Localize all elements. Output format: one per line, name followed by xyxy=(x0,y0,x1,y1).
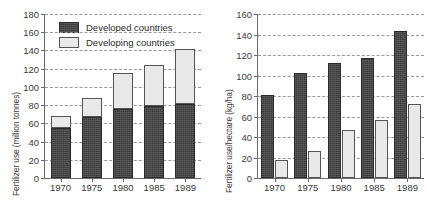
bar-stacked xyxy=(51,116,71,178)
y-axis-tick-label: 140 xyxy=(23,45,39,56)
bar-developed xyxy=(294,73,307,178)
legend-swatch-developing xyxy=(59,37,79,48)
bar-segment-developing xyxy=(175,49,195,105)
bar-developing xyxy=(408,104,421,178)
y-axis-tick xyxy=(254,35,258,36)
y-axis-tick xyxy=(254,76,258,77)
bar-segment-developed xyxy=(144,106,164,178)
gridline xyxy=(45,14,201,15)
y-axis-tick xyxy=(41,69,45,70)
y-axis-tick-label: 60 xyxy=(241,111,252,122)
bar-developed xyxy=(394,31,407,178)
y-axis-tick-label: 20 xyxy=(241,152,252,163)
bar-stacked xyxy=(175,49,195,178)
bar-stacked xyxy=(113,73,133,178)
x-axis-tick-label: 1975 xyxy=(297,182,318,193)
bar-segment-developed xyxy=(113,109,133,178)
y-axis-tick xyxy=(41,123,45,124)
x-axis-tick-label: 1989 xyxy=(397,182,418,193)
gridline xyxy=(258,14,424,15)
chart-panel-right: Fertilizer use/hectare (kg/ha) 020406080… xyxy=(213,0,427,212)
y-axis-tick-label: 40 xyxy=(28,136,39,147)
bar-segment-developed xyxy=(82,117,102,178)
y-axis-tick xyxy=(41,14,45,15)
chart-legend: Developed countries Developing countries xyxy=(59,20,175,50)
bar-stacked xyxy=(144,65,164,178)
bar-stacked xyxy=(82,98,102,178)
y-axis-tick xyxy=(41,50,45,51)
fertilizer-use-figure: Fertilizer use (million tonnes) Develope… xyxy=(0,0,427,212)
bar-developed xyxy=(261,95,274,178)
bar-developed xyxy=(328,63,341,178)
bar-developing xyxy=(308,151,321,178)
x-axis-tick-label: 1985 xyxy=(144,182,165,193)
chart-panel-left: Fertilizer use (million tonnes) Develope… xyxy=(0,0,213,212)
y-axis-tick xyxy=(41,105,45,106)
y-axis-tick-label: 80 xyxy=(28,100,39,111)
y-axis-tick xyxy=(254,55,258,56)
bar-segment-developing xyxy=(82,98,102,117)
y-axis-tick-label: 160 xyxy=(236,9,252,20)
y-axis-tick-label: 40 xyxy=(241,132,252,143)
bar-segment-developing xyxy=(144,65,164,106)
x-axis-tick-label: 1975 xyxy=(81,182,102,193)
bar-segment-developing xyxy=(113,73,133,109)
y-axis-tick-label: 100 xyxy=(23,81,39,92)
bar-segment-developing xyxy=(51,116,71,128)
y-axis-tick-label: 80 xyxy=(241,91,252,102)
y-axis-tick-label: 160 xyxy=(23,27,39,38)
bar-segment-developed xyxy=(175,104,195,178)
y-axis-tick-label: 140 xyxy=(236,29,252,40)
bar-segment-developed xyxy=(51,128,71,178)
x-axis-tick-label: 1970 xyxy=(264,182,285,193)
y-axis-tick xyxy=(41,160,45,161)
bar-developing xyxy=(375,120,388,178)
y-axis-tick xyxy=(254,96,258,97)
x-axis-tick-label: 1980 xyxy=(112,182,133,193)
bar-developing xyxy=(342,130,355,178)
y-axis-tick-label: 0 xyxy=(34,173,39,184)
bar-developing xyxy=(275,160,288,178)
x-axis-tick-label: 1970 xyxy=(50,182,71,193)
bar-developed xyxy=(361,58,374,178)
legend-label-developing: Developing countries xyxy=(86,37,175,48)
y-axis-tick-label: 20 xyxy=(28,154,39,165)
legend-item-developing: Developing countries xyxy=(59,35,175,50)
y-axis-tick xyxy=(41,142,45,143)
plot-area-right: 0204060801001201401601970197519801985198… xyxy=(257,14,424,179)
y-axis-tick-label: 120 xyxy=(23,63,39,74)
y-axis-tick xyxy=(254,117,258,118)
y-axis-tick xyxy=(41,178,45,179)
x-axis-tick-label: 1985 xyxy=(364,182,385,193)
y-axis-tick-label: 60 xyxy=(28,118,39,129)
x-axis-tick-label: 1989 xyxy=(175,182,196,193)
y-axis-tick xyxy=(254,178,258,179)
y-axis-tick xyxy=(41,87,45,88)
x-axis-tick-label: 1980 xyxy=(330,182,351,193)
y-axis-tick xyxy=(254,158,258,159)
y-axis-tick-label: 120 xyxy=(236,50,252,61)
y-axis-tick-label: 100 xyxy=(236,70,252,81)
y-axis-tick xyxy=(41,32,45,33)
gridline xyxy=(45,32,201,33)
y-axis-tick-label: 180 xyxy=(23,9,39,20)
y-axis-tick xyxy=(254,137,258,138)
plot-area-left: Developed countries Developing countries… xyxy=(44,14,201,179)
y-axis-tick xyxy=(254,14,258,15)
y-axis-tick-label: 0 xyxy=(247,173,252,184)
